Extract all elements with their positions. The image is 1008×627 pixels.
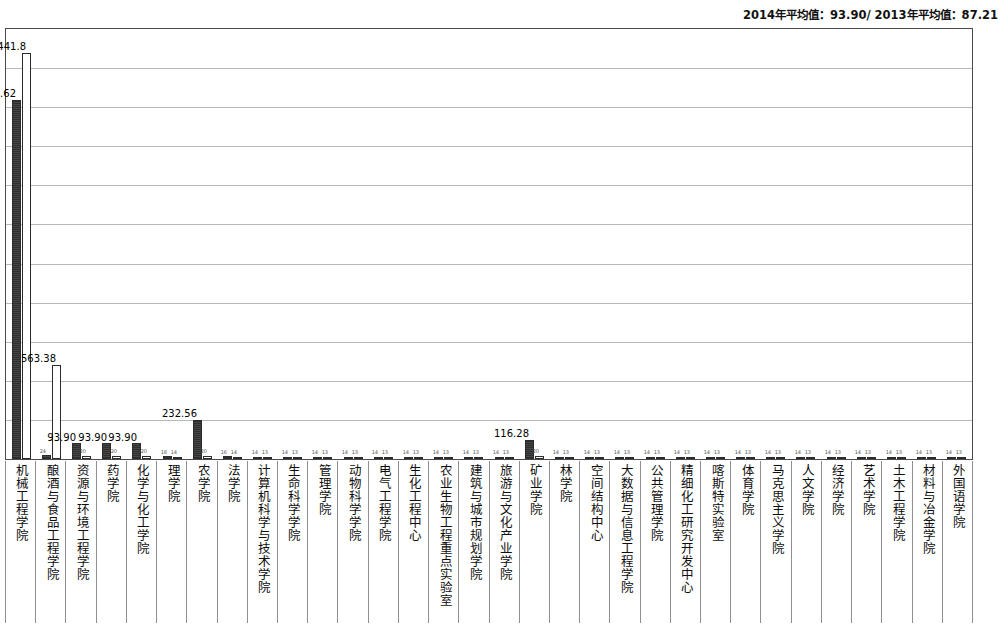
bar-wrapper: 14 (464, 29, 473, 459)
bar-group: 1413 (881, 29, 911, 459)
category-tick-2: 资源与环境工程学院 (65, 461, 95, 623)
bar-value-label: 14 (372, 451, 378, 456)
bar-2013[interactable]: 14 (887, 457, 896, 459)
bar-2013[interactable]: 14 (585, 457, 594, 459)
bar-value-label: 13 (956, 451, 962, 456)
bar-2014[interactable]: 20 (112, 456, 121, 459)
bar-value-label: 13 (835, 451, 841, 456)
bar-2013[interactable]: 14 (313, 457, 322, 459)
bar-2014[interactable]: 13 (716, 457, 725, 459)
bar-value-label: 14 (342, 451, 348, 456)
bar-2013[interactable]: 16 (223, 456, 232, 459)
bar-wrapper: 93.90 (102, 29, 111, 459)
bar-2014[interactable]: 13 (474, 457, 483, 459)
bar-2013[interactable]: 24 (42, 455, 51, 459)
bar-2014[interactable]: 20 (142, 456, 151, 459)
bar-2014[interactable]: 13 (444, 457, 453, 459)
bar-wrapper: 14 (947, 29, 956, 459)
bar-2014[interactable]: 13 (746, 457, 755, 459)
bar-2013[interactable]: 14 (766, 457, 775, 459)
bar-2013[interactable]: 14 (374, 457, 383, 459)
bar-2014[interactable]: 13 (837, 457, 846, 459)
bar-2014[interactable]: 13 (565, 457, 574, 459)
bar-wrapper: 2441.8 (22, 29, 31, 459)
bar-2013[interactable]: 14 (736, 457, 745, 459)
bar-2013[interactable]: 14 (947, 457, 956, 459)
bar-2014[interactable]: 13 (595, 457, 604, 459)
bar-2013[interactable]: 14 (464, 457, 473, 459)
bar-2013[interactable]: 14 (857, 457, 866, 459)
bar-value-label: 18 (161, 450, 167, 455)
bar-value-label: 13 (684, 451, 690, 456)
bar-2014[interactable]: 13 (354, 457, 363, 459)
bar-wrapper: 13 (625, 29, 634, 459)
bar-2013[interactable]: 14 (706, 457, 715, 459)
bar-2014[interactable]: 13 (414, 457, 423, 459)
bar-2014[interactable]: 13 (263, 457, 272, 459)
bar-group: 1413 (278, 29, 308, 459)
bar-2013[interactable]: 14 (344, 457, 353, 459)
bar-wrapper: 13 (474, 29, 483, 459)
bar-2014[interactable]: 13 (897, 457, 906, 459)
bar-2014[interactable]: 13 (505, 457, 514, 459)
bar-2014[interactable]: 13 (927, 457, 936, 459)
bar-2013[interactable]: 14 (404, 457, 413, 459)
bar-2014[interactable]: 13 (957, 457, 966, 459)
bar-2014[interactable]: 20 (203, 456, 212, 459)
bar-group: 1413 (942, 29, 972, 459)
bar-2013[interactable]: 14 (253, 457, 262, 459)
bar-group: 2159.622441.8 (6, 29, 36, 459)
bar-2014[interactable]: 563.38 (52, 365, 61, 459)
bar-wrapper: 14 (313, 29, 322, 459)
bar-2014[interactable]: 20 (535, 456, 544, 459)
bar-2014[interactable]: 13 (686, 457, 695, 459)
bar-wrapper: 20 (82, 29, 91, 459)
bar-wrapper: 13 (837, 29, 846, 459)
bar-value-label: 13 (865, 451, 871, 456)
category-tick-12: 电气工程学院 (368, 461, 398, 623)
bar-value-label: 116.28 (494, 429, 529, 439)
category-tick-15: 建筑与城市规划学院 (458, 461, 488, 623)
bar-value-label: 14 (432, 451, 438, 456)
bar-2014[interactable]: 2441.8 (22, 53, 31, 459)
bar-2014[interactable]: 13 (656, 457, 665, 459)
bar-wrapper: 2159.62 (12, 29, 21, 459)
bar-2013[interactable]: 14 (676, 457, 685, 459)
bar-2014[interactable]: 13 (625, 457, 634, 459)
bar-wrapper: 14 (555, 29, 564, 459)
bar-2013[interactable]: 14 (917, 457, 926, 459)
bar-2013[interactable]: 14 (555, 457, 564, 459)
bar-value-label: 93.90 (78, 432, 107, 442)
bar-group: 1413 (610, 29, 640, 459)
bar-2014[interactable]: 13 (806, 457, 815, 459)
bar-wrapper: 14 (585, 29, 594, 459)
bar-2014[interactable]: 14 (233, 457, 242, 459)
category-label: 化学与化工学院 (135, 461, 148, 623)
bar-wrapper: 13 (897, 29, 906, 459)
bar-wrapper: 13 (263, 29, 272, 459)
bar-2013[interactable]: 14 (827, 457, 836, 459)
bar-2014[interactable]: 13 (384, 457, 393, 459)
bar-2014[interactable]: 13 (776, 457, 785, 459)
bar-2014[interactable]: 14 (173, 457, 182, 459)
category-label: 艺术学院 (860, 461, 873, 623)
bar-2013[interactable]: 18 (163, 456, 172, 459)
bar-2014[interactable]: 20 (82, 456, 91, 459)
bar-2014[interactable]: 13 (323, 457, 332, 459)
bar-2013[interactable]: 14 (615, 457, 624, 459)
bar-wrapper: 14 (434, 29, 443, 459)
category-label: 电气工程学院 (377, 461, 390, 623)
bar-2013[interactable]: 14 (283, 457, 292, 459)
bar-2013[interactable]: 14 (646, 457, 655, 459)
category-label: 生命科学学院 (286, 461, 299, 623)
bar-2013[interactable]: 14 (495, 457, 504, 459)
bar-value-label: 14 (402, 451, 408, 456)
bar-2013[interactable]: 2159.62 (12, 100, 21, 459)
category-label: 土木工程学院 (891, 461, 904, 623)
bar-2014[interactable]: 13 (867, 457, 876, 459)
bar-2013[interactable]: 14 (796, 457, 805, 459)
bar-value-label: 14 (885, 451, 891, 456)
bar-group: 93.9020 (127, 29, 157, 459)
bar-2014[interactable]: 13 (293, 457, 302, 459)
bar-2013[interactable]: 14 (434, 457, 443, 459)
